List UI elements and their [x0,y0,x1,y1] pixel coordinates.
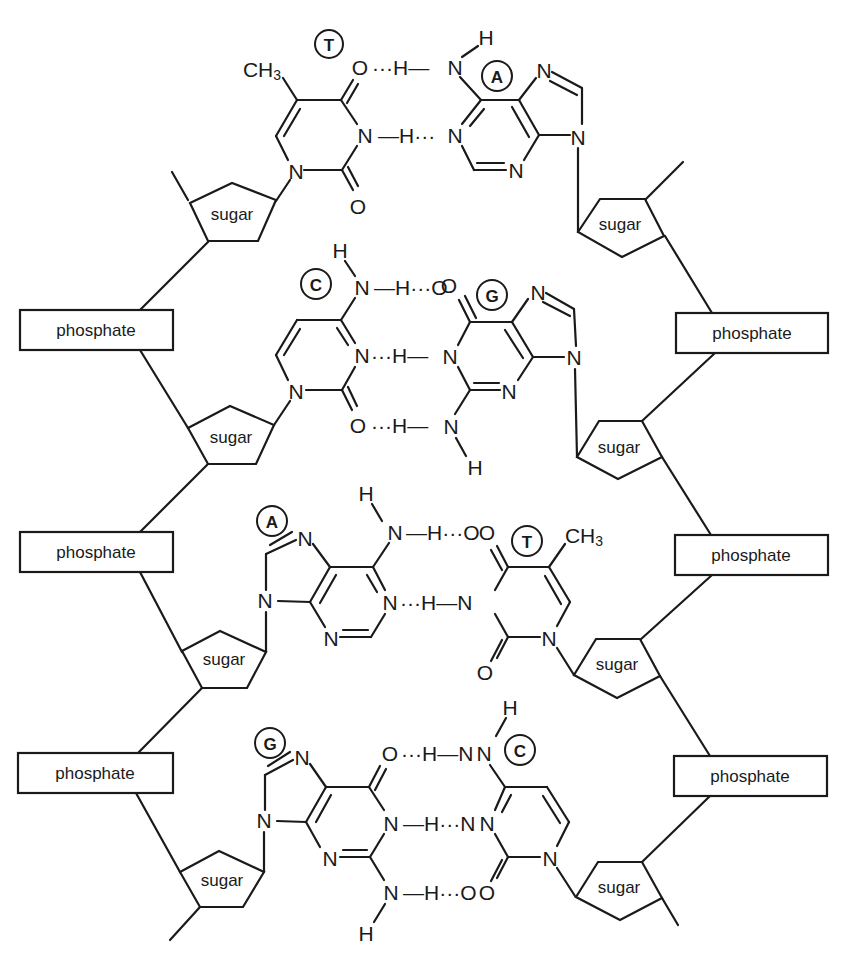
phosphate-box: phosphate [18,753,173,793]
sugar-pentagon: sugar [574,639,660,698]
phosphate-label: phosphate [711,546,790,565]
atom-n2: N [383,881,398,904]
base-label-a: A [257,506,287,536]
svg-text:T: T [522,533,533,552]
atom-n3: N [322,847,337,870]
svg-text:A: A [491,68,503,87]
base-label-c: C [505,735,535,765]
sugar-label: sugar [596,655,639,674]
atom-n2: N [443,415,458,438]
base-label-t: T [512,526,542,556]
sugar-pentagon: sugar [578,199,664,257]
hydrogen-bond-3: ···H— [371,414,428,437]
sugar-label: sugar [201,871,244,890]
phosphate-box: phosphate [675,535,828,575]
sugar-pentagon: sugar [180,851,264,907]
svg-text:C: C [514,742,526,761]
base-label-t: T [315,30,343,58]
atom-h: H [478,26,493,49]
base-label-g: G [255,728,285,758]
left-phosphates: phosphate phosphate phosphate [18,310,173,793]
hydrogen-bond-1: —H···O [374,276,447,299]
sugar-label: sugar [203,650,246,669]
atom-o6: O [441,274,457,297]
atom-o2: O [350,414,366,437]
sugar-pentagon: sugar [190,183,276,241]
hydrogen-bond-2: —H···N [403,812,475,835]
hydrogen-bond-2: ···H—N [400,591,472,614]
atom-n4: N [354,276,369,299]
phosphate-label: phosphate [710,767,789,786]
sugar-label: sugar [210,428,253,447]
svg-text:T: T [324,36,335,55]
atom-n7: N [297,527,312,550]
atom-o2: O [479,881,495,904]
phosphate-label: phosphate [712,324,791,343]
methyl-group: CH3 [565,524,603,550]
sugar-pentagon: sugar [188,406,274,464]
svg-text:G: G [485,287,498,306]
atom-h: H [358,482,373,505]
atom-h: H [502,696,517,719]
methyl-group: CH3 [243,58,281,84]
atom-n3: N [357,124,372,147]
svg-text:A: A [266,513,278,532]
svg-text:C: C [310,276,322,295]
phosphate-label: phosphate [56,543,135,562]
atom-n1: N [383,812,398,835]
base-pair-3-adenine-thymine: H N N N N N A [257,482,603,684]
atom-o6: O [382,742,398,765]
atom-h: H [332,239,347,262]
hydrogen-bond-2: —H··· [378,124,435,147]
atom-o4: O [352,56,368,79]
left-sugars: sugar sugar sugar sugar [180,183,276,907]
guanine-ring: N N N H O N N [256,742,398,945]
atom-n4: N [476,742,491,765]
phosphate-box: phosphate [674,756,827,796]
atom-n3: N [501,380,516,403]
right-phosphates: phosphate phosphate phosphate [674,313,828,796]
atom-n6: N [387,521,402,544]
cytosine-ring: H N N N O [274,239,370,437]
atom-n1: N [382,591,397,614]
right-sugars: sugar sugar sugar sugar [574,199,664,920]
sugar-pentagon: sugar [182,631,266,688]
phosphate-label: phosphate [56,321,135,340]
hydrogen-bond-1: ···H—N [401,742,473,765]
atom-n7: N [536,59,551,82]
sugar-label: sugar [599,215,642,234]
phosphate-label: phosphate [55,764,134,783]
base-label-a: A [482,61,512,91]
base-label-g: G [477,280,507,310]
hydrogen-bond-1: ···H— [372,56,429,79]
base-label-c: C [301,269,331,299]
sugar-pentagon: sugar [576,862,662,920]
atom-n6: N [447,56,462,79]
cytosine-ring: H N N N O [476,696,575,904]
hydrogen-bond-2: ···H— [371,344,428,367]
atom-n9: N [256,809,271,832]
guanine-ring: N N N H O N N [441,274,582,479]
sugar-label: sugar [211,205,254,224]
svg-text:G: G [263,735,276,754]
base-pair-1-thymine-adenine: N N O O CH3 T ···H— —H··· N H [243,26,586,233]
atom-o2: O [477,661,493,684]
atom-n1: N [288,160,303,183]
atom-n9: N [257,589,272,612]
adenine-ring: N H N N N N [447,26,585,233]
atom-n1: N [442,345,457,368]
hydrogen-bond-1: —H···O [406,521,479,544]
sugar-label: sugar [598,438,641,457]
atom-n3: N [354,344,369,367]
base-pair-4-guanine-cytosine: N N N H O N N G ···H—N —H···N —H···O H N [255,696,575,945]
sugar-label: sugar [598,878,641,897]
atom-o2: O [350,195,366,218]
dna-base-pairing-diagram: phosphate phosphate phosphate phosphate … [0,0,848,965]
atom-n1: N [447,124,462,147]
sugar-pentagon: sugar [577,421,662,479]
atom-n9: N [570,126,585,149]
phosphate-box: phosphate [20,532,173,572]
atom-h: H [358,922,373,945]
atom-n7: N [530,281,545,304]
hydrogen-bond-3: —H···O [403,881,476,904]
